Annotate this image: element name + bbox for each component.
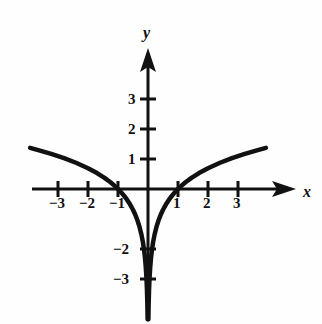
- axes-group: [32, 48, 296, 302]
- y-tick-label: −2: [113, 242, 129, 257]
- graph-figure: y x −3−2−1123321−2−3: [0, 0, 322, 324]
- x-tick-label: −2: [79, 196, 95, 211]
- y-tick-label: 3: [128, 92, 136, 107]
- y-tick-label: −3: [113, 272, 129, 287]
- x-tick-label: 3: [233, 196, 241, 211]
- y-tick-label: 2: [128, 122, 136, 137]
- curve-left-branch: [30, 148, 148, 319]
- plot-canvas: [0, 0, 322, 324]
- curve-right-branch: [148, 148, 266, 319]
- x-tick-label: −1: [109, 196, 125, 211]
- y-tick-label: 1: [128, 152, 136, 167]
- y-axis-label: y: [143, 25, 150, 41]
- x-tick-label: 1: [173, 196, 181, 211]
- x-tick-label: −3: [49, 196, 65, 211]
- x-tick-label: 2: [203, 196, 211, 211]
- x-axis-label: x: [303, 184, 311, 200]
